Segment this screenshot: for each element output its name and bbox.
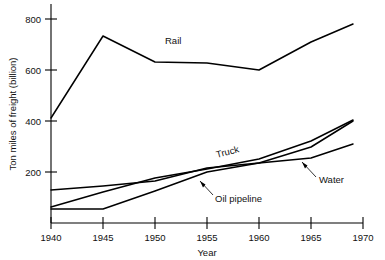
- x-tick-label-1945: 1945: [92, 232, 113, 243]
- y-axis-tick-labels: 800 600 400 200: [25, 14, 41, 178]
- y-tick-label-600: 600: [25, 65, 41, 76]
- x-axis-title: Year: [197, 247, 216, 258]
- x-tick-label-1940: 1940: [40, 232, 61, 243]
- water-label: Water: [319, 174, 344, 185]
- y-tick-label-200: 200: [25, 167, 41, 178]
- freight-line-chart: 800 600 400 200 1940 1945 1950 1955 1960…: [0, 0, 385, 260]
- figure-container: 800 600 400 200 1940 1945 1950 1955 1960…: [0, 0, 385, 260]
- y-tick-label-400: 400: [25, 116, 41, 127]
- y-tick-label-800: 800: [25, 14, 41, 25]
- x-tick-label-1960: 1960: [248, 232, 269, 243]
- oil-pipeline-label: Oil pipeline: [215, 193, 262, 204]
- x-tick-label-1965: 1965: [300, 232, 321, 243]
- series-line-rail: [51, 24, 353, 118]
- truck-label: Truck: [215, 143, 241, 160]
- x-axis-tick-labels: 1940 1945 1950 1955 1960 1965 1970: [40, 232, 373, 243]
- y-axis-title: Ton miles of freight (billion): [7, 58, 18, 171]
- x-tick-label-1970: 1970: [352, 232, 373, 243]
- x-tick-label-1950: 1950: [144, 232, 165, 243]
- series-line-oil-pipeline: [51, 121, 353, 209]
- x-tick-label-1955: 1955: [196, 232, 217, 243]
- rail-label: Rail: [165, 35, 181, 46]
- series-line-truck: [51, 120, 353, 207]
